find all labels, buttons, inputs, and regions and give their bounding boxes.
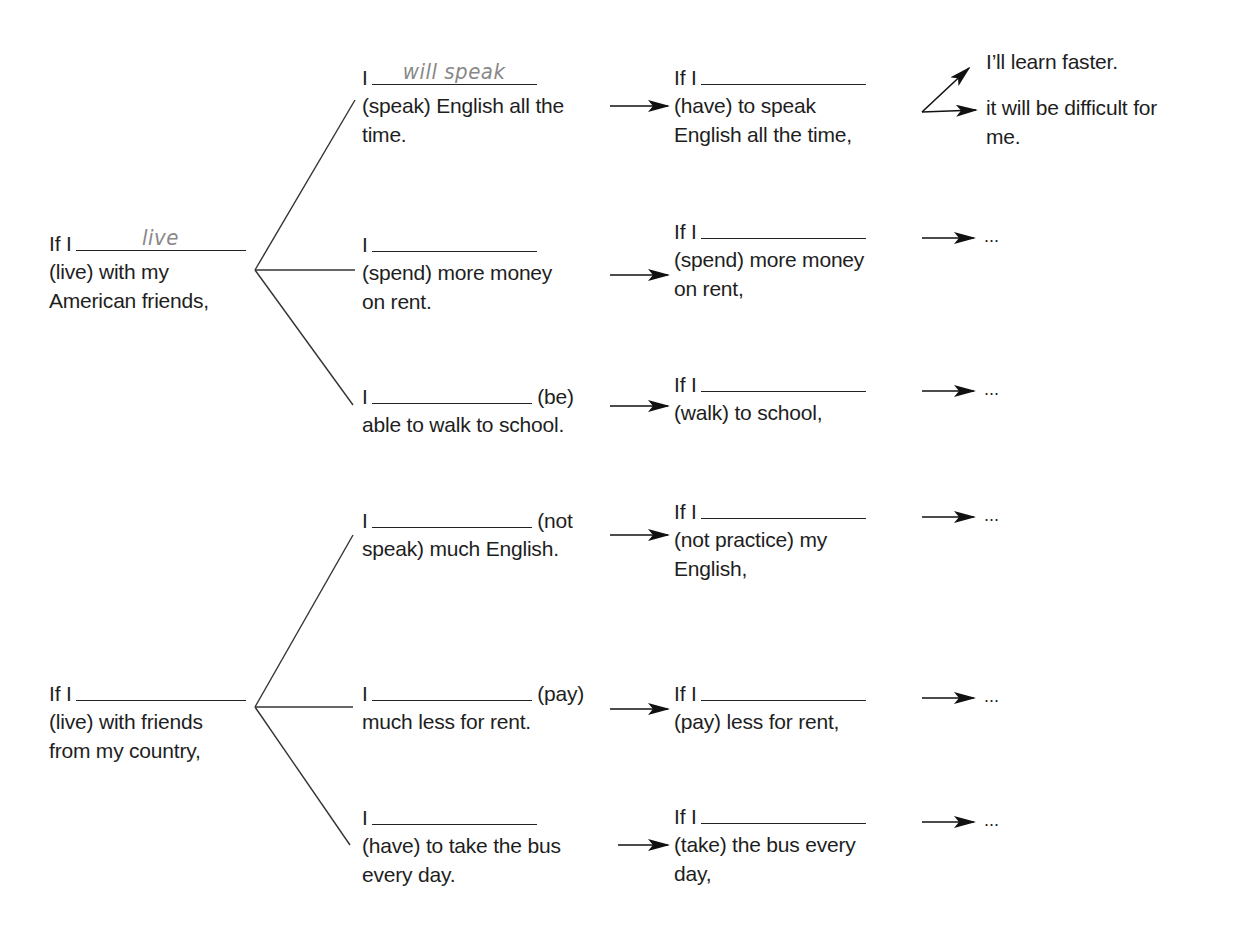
- next-condition-block-2-1: If I (not practice) my English,: [674, 496, 866, 583]
- outcome-ellipsis: ...: [984, 226, 999, 247]
- answer-blank[interactable]: [701, 62, 866, 85]
- outcome-ellipsis: ...: [984, 686, 999, 707]
- subject-label: I: [362, 385, 368, 408]
- conditional-chain-diagram: If Ilive (live) with my American friends…: [0, 0, 1250, 935]
- next-condition-block-1-3: If I (walk) to school,: [674, 369, 866, 427]
- result-block-1-1: Iwill speak (speak) English all the time…: [362, 62, 564, 149]
- condition-text: (spend) more money: [674, 245, 866, 274]
- answer-blank[interactable]: [701, 496, 866, 519]
- outcome-negative: it will be difficult for: [986, 93, 1157, 122]
- result-text: (speak) English all the: [362, 91, 564, 120]
- result-text: (have) to take the bus: [362, 831, 561, 860]
- next-condition-block-1-1: If I (have) to speak English all the tim…: [674, 62, 866, 149]
- condition-text: from my country,: [49, 736, 246, 765]
- if-label: If I: [674, 373, 697, 396]
- condition-text: (take) the bus every: [674, 830, 866, 859]
- subject-label: I: [362, 806, 368, 829]
- next-condition-block-2-3: If I (take) the bus every day,: [674, 801, 866, 888]
- result-block-1-3: I (be) able to walk to school.: [362, 381, 574, 439]
- if-label: If I: [49, 682, 72, 705]
- result-block-2-1: I (not speak) much English.: [362, 505, 573, 563]
- if-label: If I: [674, 682, 697, 705]
- answer-blank[interactable]: [372, 505, 532, 528]
- condition-text: (walk) to school,: [674, 398, 866, 427]
- subject-label: I: [362, 233, 368, 256]
- condition-text: American friends,: [49, 286, 246, 315]
- condition-text: (live) with my: [49, 257, 246, 286]
- answer-blank[interactable]: [701, 369, 866, 392]
- condition-text: on rent,: [674, 274, 866, 303]
- handwritten-answer: will speak: [372, 57, 537, 86]
- outcome-block-1-1b: it will be difficult for me.: [986, 93, 1157, 151]
- answer-blank[interactable]: [701, 216, 866, 239]
- condition-text: (not practice) my: [674, 525, 866, 554]
- result-text: much less for rent.: [362, 707, 584, 736]
- result-text: speak) much English.: [362, 534, 573, 563]
- subject-label: I: [362, 66, 368, 89]
- if-label: If I: [674, 500, 697, 523]
- result-text: time.: [362, 120, 564, 149]
- if-label: If I: [674, 220, 697, 243]
- condition-text: English all the time,: [674, 120, 866, 149]
- result-text: (spend) more money: [362, 258, 552, 287]
- arrow-icon: [922, 68, 969, 112]
- answer-blank[interactable]: [372, 678, 532, 701]
- answer-blank[interactable]: [372, 381, 532, 404]
- condition-text: (have) to speak: [674, 91, 866, 120]
- branch-line: [255, 100, 355, 270]
- verb-hint: (pay): [537, 682, 584, 705]
- handwritten-answer: live: [76, 223, 246, 252]
- condition-block-1: If Ilive (live) with my American friends…: [49, 228, 246, 315]
- if-label: If I: [49, 232, 72, 255]
- next-condition-block-2-2: If I (pay) less for rent,: [674, 678, 866, 736]
- condition-text: English,: [674, 554, 866, 583]
- result-text: on rent.: [362, 287, 552, 316]
- if-label: If I: [674, 66, 697, 89]
- result-text: every day.: [362, 860, 561, 889]
- outcome-negative: me.: [986, 122, 1157, 151]
- condition-text: day,: [674, 859, 866, 888]
- result-block-1-2: I (spend) more money on rent.: [362, 229, 552, 316]
- next-condition-block-1-2: If I (spend) more money on rent,: [674, 216, 866, 303]
- outcome-ellipsis: ...: [984, 810, 999, 831]
- result-block-2-3: I (have) to take the bus every day.: [362, 802, 561, 889]
- result-block-2-2: I (pay) much less for rent.: [362, 678, 584, 736]
- branch-line: [255, 707, 350, 845]
- arrow-icon: [922, 110, 976, 112]
- answer-blank[interactable]: [372, 802, 537, 825]
- outcome-positive: I’ll learn faster.: [986, 47, 1118, 76]
- outcome-block-1-1: I’ll learn faster.: [986, 47, 1118, 76]
- subject-label: I: [362, 682, 368, 705]
- if-label: If I: [674, 805, 697, 828]
- subject-label: I: [362, 509, 368, 532]
- branch-line: [255, 535, 353, 707]
- answer-blank[interactable]: [372, 229, 537, 252]
- answer-blank[interactable]: will speak: [372, 62, 537, 85]
- answer-blank[interactable]: [76, 678, 246, 701]
- condition-block-2: If I (live) with friends from my country…: [49, 678, 246, 765]
- verb-hint: (be): [537, 385, 574, 408]
- branch-line: [255, 270, 353, 405]
- condition-text: (live) with friends: [49, 707, 246, 736]
- outcome-ellipsis: ...: [984, 505, 999, 526]
- answer-blank[interactable]: [701, 801, 866, 824]
- condition-text: (pay) less for rent,: [674, 707, 866, 736]
- result-text: able to walk to school.: [362, 410, 574, 439]
- answer-blank[interactable]: [701, 678, 866, 701]
- verb-hint: (not: [537, 509, 572, 532]
- outcome-ellipsis: ...: [984, 379, 999, 400]
- answer-blank[interactable]: live: [76, 228, 246, 251]
